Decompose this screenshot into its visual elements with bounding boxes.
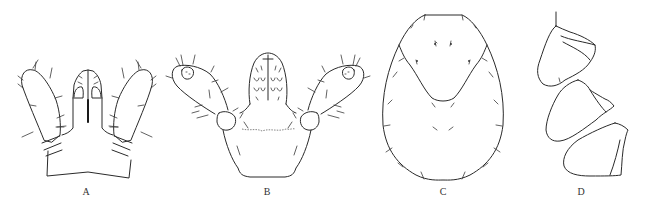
- panel-b-label: B: [264, 187, 271, 197]
- scientific-figure: A B C D: [0, 0, 646, 210]
- panel-a-label: A: [82, 187, 89, 197]
- panel-d-drawing: [0, 0, 646, 210]
- panel-c-label: C: [440, 187, 447, 197]
- panel-d-label: D: [577, 187, 584, 197]
